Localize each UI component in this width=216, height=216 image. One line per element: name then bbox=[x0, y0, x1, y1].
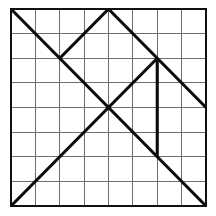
figure-container bbox=[0, 0, 216, 216]
grid-diagram bbox=[0, 0, 216, 216]
